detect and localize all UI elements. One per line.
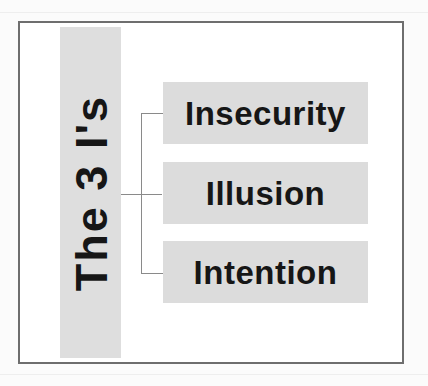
item-box-intention: Intention (163, 241, 368, 303)
diagram-title: The 3 I's (68, 94, 113, 290)
page-bleed-through (0, 374, 428, 375)
item-label: Insecurity (185, 97, 346, 130)
item-label: Intention (194, 256, 338, 289)
connector-branch-intention (141, 273, 163, 274)
connector-spine (141, 113, 142, 274)
page-bleed-through (0, 12, 428, 13)
item-box-illusion: Illusion (163, 162, 368, 224)
title-bar: The 3 I's (60, 27, 121, 358)
item-box-insecurity: Insecurity (163, 82, 368, 144)
item-label: Illusion (206, 177, 326, 210)
connector-branch-insecurity (141, 113, 163, 114)
